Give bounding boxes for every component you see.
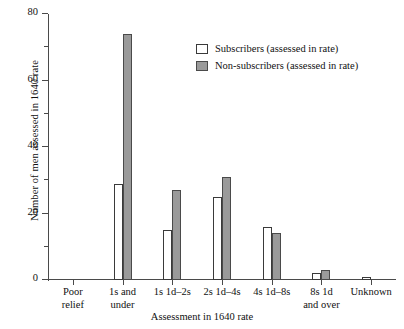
x-category-label-6: Unknown <box>333 286 404 299</box>
chart-legend: Subscribers (assessed in rate) Non-subsc… <box>196 40 358 74</box>
x-axis-title: Assessment in 1640 rate <box>0 311 404 322</box>
bar-subscribers-2 <box>163 230 172 280</box>
y-tick-minor-30 <box>44 179 48 180</box>
bar-non-subscribers-5 <box>321 270 330 280</box>
x-tick-5 <box>321 280 322 285</box>
y-tick-20: 20 <box>42 213 48 214</box>
bar-non-subscribers-4 <box>272 233 281 280</box>
legend-item-subscribers: Subscribers (assessed in rate) <box>196 40 358 57</box>
y-tick-40: 40 <box>42 146 48 147</box>
bar-subscribers-6 <box>362 277 371 280</box>
bar-subscribers-3 <box>213 197 222 280</box>
x-tick-0 <box>73 280 74 285</box>
bar-non-subscribers-1 <box>123 34 132 280</box>
bar-chart: Number of men assessed in 1640 rate 0204… <box>0 0 404 329</box>
x-tick-2 <box>172 280 173 285</box>
legend-swatch-icon-subscribers <box>196 44 208 54</box>
bar-non-subscribers-3 <box>222 177 231 280</box>
legend-swatch-icon-non-subscribers <box>196 61 208 71</box>
bar-subscribers-5 <box>312 273 321 280</box>
legend-label-non-subscribers: Non-subscribers (assessed in rate) <box>215 60 358 71</box>
y-tick-label-40: 40 <box>28 139 39 150</box>
x-tick-3 <box>222 280 223 285</box>
legend-item-non-subscribers: Non-subscribers (assessed in rate) <box>196 57 358 74</box>
y-tick-label-0: 0 <box>33 272 38 283</box>
y-tick-label-80: 80 <box>28 6 39 17</box>
bar-non-subscribers-2 <box>172 190 181 280</box>
y-tick-minor-50 <box>44 113 48 114</box>
bar-subscribers-1 <box>114 184 123 280</box>
y-axis-line <box>48 14 49 281</box>
y-tick-80: 80 <box>42 13 48 14</box>
x-tick-4 <box>272 280 273 285</box>
y-tick-minor-70 <box>44 46 48 47</box>
legend-label-subscribers: Subscribers (assessed in rate) <box>215 43 338 54</box>
y-tick-minor-10 <box>44 246 48 247</box>
bar-subscribers-4 <box>263 227 272 280</box>
y-tick-label-20: 20 <box>28 206 39 217</box>
x-tick-6 <box>371 280 372 285</box>
y-tick-0: 0 <box>42 279 48 280</box>
y-tick-label-60: 60 <box>28 73 39 84</box>
x-tick-1 <box>123 280 124 285</box>
y-tick-60: 60 <box>42 80 48 81</box>
